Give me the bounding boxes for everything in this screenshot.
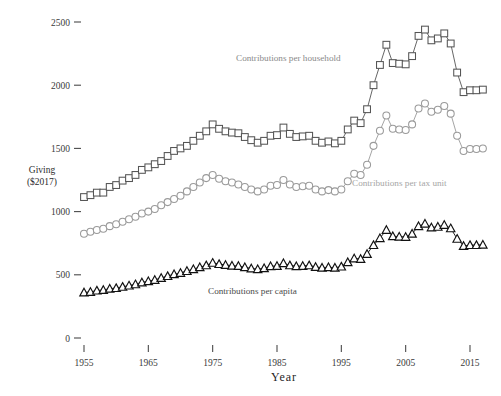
data-point-circle bbox=[351, 170, 358, 177]
data-point-square bbox=[293, 134, 300, 141]
data-point-circle bbox=[190, 183, 197, 190]
data-point-triangle bbox=[421, 219, 429, 227]
annotation-contributions-per-tax-unit: Contributions per tax unit bbox=[352, 178, 447, 188]
series-triangle bbox=[80, 219, 487, 296]
data-point-circle bbox=[151, 206, 158, 213]
data-point-circle bbox=[441, 103, 448, 110]
series-layer bbox=[80, 26, 487, 296]
data-point-circle bbox=[338, 186, 345, 193]
data-point-circle bbox=[447, 110, 454, 117]
data-point-circle bbox=[454, 132, 461, 139]
data-point-square bbox=[344, 126, 351, 133]
data-point-square bbox=[364, 106, 371, 113]
data-point-square bbox=[428, 37, 435, 44]
data-point-square bbox=[241, 134, 248, 141]
giving-line-chart: 05001000150020002500 1955196519751985199… bbox=[0, 0, 501, 396]
data-point-circle bbox=[196, 179, 203, 186]
data-point-circle bbox=[280, 177, 287, 184]
data-point-circle bbox=[479, 145, 486, 152]
data-point-square bbox=[383, 41, 390, 48]
data-point-circle bbox=[177, 192, 184, 199]
x-tick-label: 1995 bbox=[332, 358, 351, 368]
data-point-square bbox=[274, 132, 281, 139]
y-tick-label: 0 bbox=[65, 334, 70, 344]
data-point-square bbox=[261, 137, 268, 144]
data-point-square bbox=[139, 166, 146, 173]
y-tick-label: 2000 bbox=[51, 81, 70, 91]
data-point-circle bbox=[364, 161, 371, 168]
data-point-square bbox=[145, 164, 152, 171]
data-point-square bbox=[126, 175, 133, 182]
data-point-square bbox=[106, 184, 113, 191]
data-point-square bbox=[389, 60, 396, 67]
data-point-circle bbox=[132, 213, 139, 220]
data-point-circle bbox=[267, 182, 274, 189]
data-point-circle bbox=[409, 121, 416, 128]
data-point-circle bbox=[158, 202, 165, 209]
data-point-circle bbox=[325, 187, 332, 194]
data-point-circle bbox=[473, 146, 480, 153]
data-point-square bbox=[267, 132, 274, 139]
data-point-square bbox=[332, 140, 339, 147]
data-point-circle bbox=[319, 188, 326, 195]
data-point-circle bbox=[222, 178, 229, 185]
y-tick-label: 1500 bbox=[51, 144, 70, 154]
y-tick-label: 2500 bbox=[51, 18, 70, 28]
data-point-square bbox=[473, 87, 480, 94]
data-point-triangle bbox=[279, 259, 287, 267]
data-point-square bbox=[93, 189, 100, 196]
data-point-circle bbox=[299, 183, 306, 190]
data-point-square bbox=[377, 62, 384, 69]
data-point-square bbox=[402, 61, 409, 68]
data-point-triangle bbox=[382, 226, 390, 234]
data-point-square bbox=[467, 87, 474, 94]
data-point-square bbox=[422, 26, 429, 33]
data-point-circle bbox=[171, 195, 178, 202]
data-point-square bbox=[479, 86, 486, 93]
x-axis-title: Year bbox=[271, 370, 297, 384]
data-point-square bbox=[280, 124, 287, 131]
y-axis-title-line2: ($2017) bbox=[27, 177, 57, 188]
data-point-square bbox=[415, 33, 422, 40]
data-point-square bbox=[100, 189, 107, 196]
annotation-contributions-per-capita: Contributions per capita bbox=[208, 286, 297, 296]
data-point-square bbox=[151, 161, 158, 168]
data-point-square bbox=[357, 120, 364, 127]
data-point-triangle bbox=[453, 235, 461, 243]
data-point-square bbox=[248, 137, 255, 144]
data-point-circle bbox=[306, 182, 313, 189]
series-annotations: Contributions per householdContributions… bbox=[208, 53, 447, 296]
data-point-square bbox=[454, 69, 461, 76]
data-point-square bbox=[216, 125, 223, 132]
data-point-square bbox=[209, 121, 216, 128]
data-point-square bbox=[171, 148, 178, 155]
data-point-circle bbox=[383, 112, 390, 119]
data-point-circle bbox=[183, 188, 190, 195]
x-tick-label: 1955 bbox=[75, 358, 94, 368]
data-point-square bbox=[370, 82, 377, 89]
x-tick-label: 1965 bbox=[139, 358, 158, 368]
data-point-circle bbox=[203, 175, 210, 182]
data-point-square bbox=[306, 132, 313, 139]
data-point-square bbox=[254, 139, 261, 146]
annotation-contributions-per-household: Contributions per household bbox=[236, 53, 341, 63]
data-point-square bbox=[184, 142, 191, 149]
data-point-square bbox=[351, 117, 358, 124]
data-point-square bbox=[119, 177, 126, 184]
x-axis-ticks: 1955196519751985199520052015 bbox=[75, 345, 480, 368]
data-point-square bbox=[196, 132, 203, 139]
data-point-square bbox=[319, 139, 326, 146]
data-point-square bbox=[312, 137, 319, 144]
data-point-circle bbox=[261, 186, 268, 193]
data-point-square bbox=[203, 128, 210, 135]
data-point-square bbox=[81, 194, 88, 201]
data-point-circle bbox=[389, 125, 396, 132]
data-point-square bbox=[235, 130, 242, 137]
data-point-triangle bbox=[440, 221, 448, 229]
data-point-square bbox=[299, 133, 306, 140]
data-point-circle bbox=[93, 226, 100, 233]
data-point-circle bbox=[209, 171, 216, 178]
data-point-square bbox=[325, 138, 332, 145]
data-point-square bbox=[132, 172, 139, 179]
data-point-square bbox=[113, 182, 120, 189]
